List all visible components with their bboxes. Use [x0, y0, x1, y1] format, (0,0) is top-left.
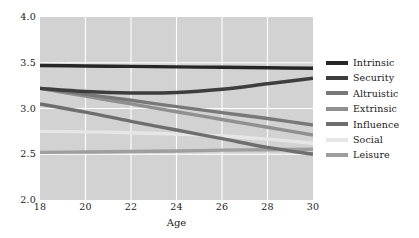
legend-label: Altruistic [353, 89, 398, 99]
y-tick-label: 3.0 [2, 104, 36, 114]
legend-item-influence[interactable]: Influence [326, 117, 418, 132]
legend-item-intrinsic[interactable]: Intrinsic [326, 55, 418, 70]
legend-swatch-security [326, 76, 348, 80]
legend-swatch-intrinsic [326, 61, 348, 65]
x-tick-label: 30 [298, 202, 328, 212]
legend-swatch-social [326, 138, 348, 142]
plot-area [40, 17, 313, 200]
legend-item-social[interactable]: Social [326, 132, 418, 147]
x-tick-label: 24 [162, 202, 192, 212]
legend-swatch-extrinsic [326, 107, 348, 111]
y-tick-label: 2.5 [2, 149, 36, 159]
legend: IntrinsicSecurityAltruisticExtrinsicInfl… [326, 55, 418, 163]
series-line-intrinsic [40, 65, 313, 68]
line-chart-figure: 2.02.53.03.54.0 18202224262830 Age Intri… [0, 0, 419, 238]
x-tick-label: 28 [253, 202, 283, 212]
legend-item-leisure[interactable]: Leisure [326, 147, 418, 162]
legend-label: Influence [353, 120, 399, 130]
x-tick-label: 20 [71, 202, 101, 212]
x-axis-tick-labels: 18202224262830 [40, 202, 313, 216]
legend-swatch-altruistic [326, 91, 348, 95]
legend-swatch-leisure [326, 153, 348, 157]
legend-label: Intrinsic [353, 58, 395, 68]
legend-item-altruistic[interactable]: Altruistic [326, 86, 418, 101]
y-axis-tick-labels: 2.02.53.03.54.0 [0, 17, 36, 200]
legend-item-extrinsic[interactable]: Extrinsic [326, 101, 418, 116]
y-tick-label: 4.0 [2, 12, 36, 22]
x-tick-label: 26 [207, 202, 237, 212]
legend-label: Security [353, 73, 394, 83]
x-tick-label: 18 [25, 202, 55, 212]
legend-label: Social [353, 135, 383, 145]
x-axis-title: Age [40, 218, 313, 228]
y-tick-label: 3.5 [2, 58, 36, 68]
plot-lines-svg [40, 17, 313, 200]
x-tick-label: 22 [116, 202, 146, 212]
legend-label: Leisure [353, 150, 390, 160]
legend-label: Extrinsic [353, 104, 397, 114]
legend-swatch-influence [326, 122, 348, 126]
legend-item-security[interactable]: Security [326, 70, 418, 85]
